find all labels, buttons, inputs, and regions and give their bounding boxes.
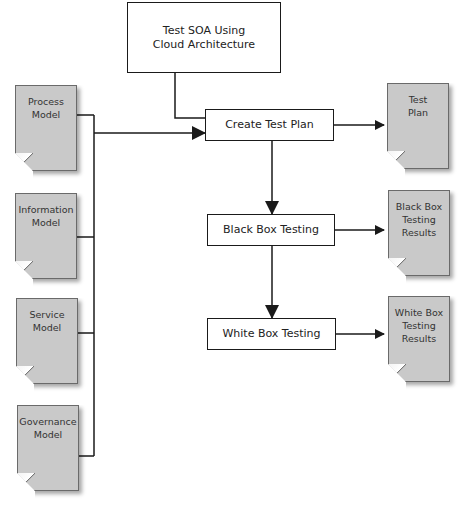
step-label: Create Test Plan xyxy=(225,118,314,132)
document-icon-label: Governance Model xyxy=(18,415,78,441)
step-label: White Box Testing xyxy=(222,327,320,341)
top-box: Test SOA Using Cloud Architecture xyxy=(127,2,281,73)
document-icon-label: Information Model xyxy=(16,203,76,229)
step-black-box-testing: Black Box Testing xyxy=(207,214,335,246)
document-icon-label: Test Plan xyxy=(388,93,448,119)
document-test-plan: Test Plan xyxy=(387,83,449,169)
top-box-label: Test SOA Using Cloud Architecture xyxy=(146,24,262,52)
document-information-model: Information Model xyxy=(15,193,77,279)
document-process-model: Process Model xyxy=(15,85,77,171)
document-icon-label: Service Model xyxy=(17,308,77,334)
document-icon-label: White Box Testing Results xyxy=(389,306,449,345)
step-label: Black Box Testing xyxy=(223,223,319,237)
step-white-box-testing: White Box Testing xyxy=(207,318,336,350)
step-create-test-plan: Create Test Plan xyxy=(205,109,334,141)
document-white-box-results: White Box Testing Results xyxy=(388,296,450,382)
document-service-model: Service Model xyxy=(16,298,78,384)
document-icon-label: Process Model xyxy=(16,95,76,121)
document-governance-model: Governance Model xyxy=(17,405,79,491)
document-icon-label: Black Box Testing Results xyxy=(389,200,449,239)
document-black-box-results: Black Box Testing Results xyxy=(388,190,450,276)
